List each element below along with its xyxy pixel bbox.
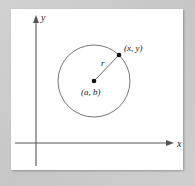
center-ab-label: (a, b) (81, 88, 101, 97)
point-xy-label: (x, y) (124, 44, 142, 53)
radius-r-label: r (101, 59, 105, 68)
figure-container: y x (x, y) (a, b) r (0, 0, 195, 186)
x-axis-label: x (177, 139, 181, 149)
y-axis-label: y (41, 13, 45, 23)
